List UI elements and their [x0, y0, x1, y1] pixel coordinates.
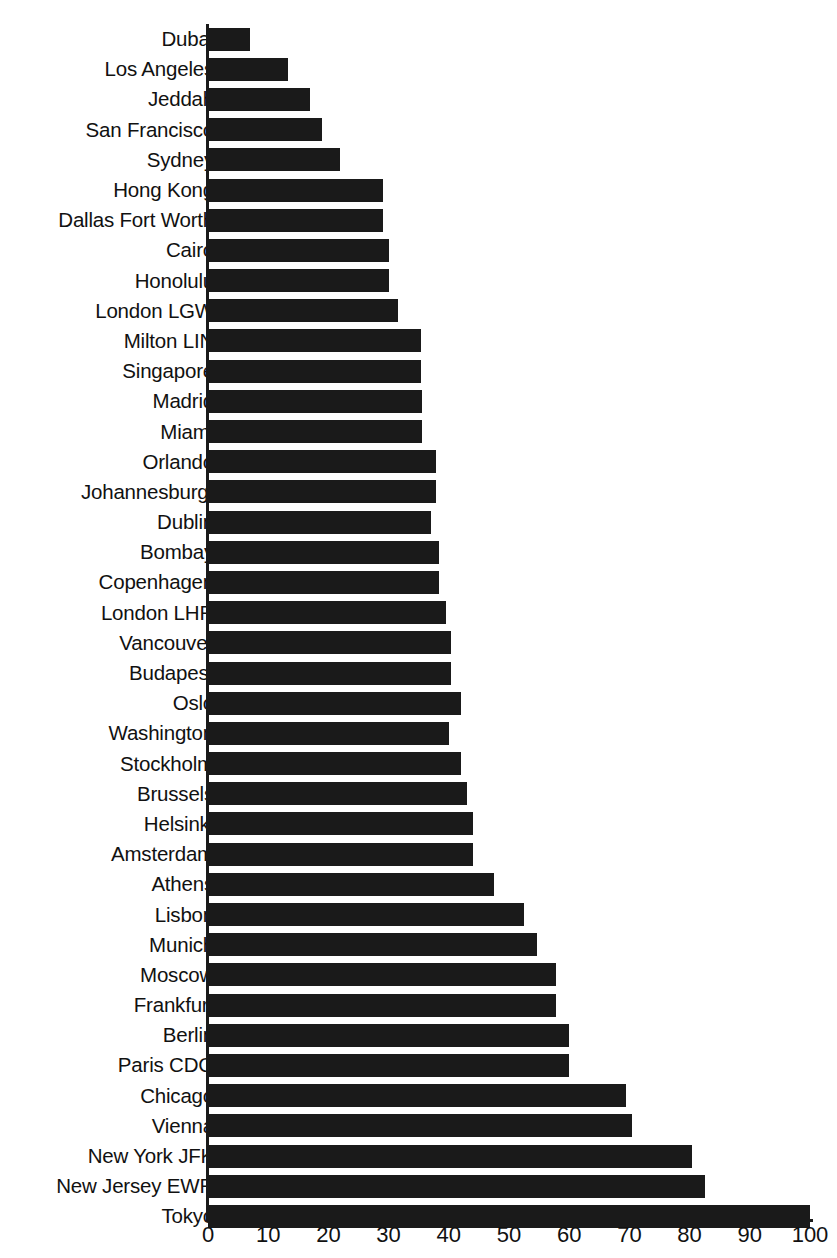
- bar-row: Copenhagen: [0, 567, 837, 597]
- bar: [208, 601, 446, 624]
- bar-track: [208, 416, 837, 446]
- bar-track: [208, 356, 837, 386]
- bar: [208, 299, 398, 322]
- bar: [208, 571, 439, 594]
- bar-track: [208, 24, 837, 54]
- category-label: Brussels: [137, 784, 214, 805]
- bar-track: [208, 749, 837, 779]
- bar-row: Madrid: [0, 386, 837, 416]
- x-tick-label: 40: [437, 1224, 461, 1246]
- bar-track: [208, 447, 837, 477]
- bar: [208, 179, 383, 202]
- category-label: Budapest: [129, 663, 214, 684]
- category-label: Stockholm: [120, 753, 214, 774]
- bar: [208, 480, 436, 503]
- x-tick-label: 60: [557, 1224, 581, 1246]
- category-label: Orlando: [142, 451, 214, 472]
- bar-track: [208, 688, 837, 718]
- bar-track: [208, 537, 837, 567]
- bar: [208, 511, 431, 534]
- category-label: Singapore: [122, 361, 214, 382]
- plot-area: DubaiLos AngelesJeddahSan FranciscoSydne…: [0, 24, 837, 1216]
- category-label: Johannesburg.: [81, 482, 214, 503]
- bar: [208, 28, 250, 51]
- category-label: San Francisco: [86, 119, 214, 140]
- x-tick-label: 70: [617, 1224, 641, 1246]
- bar: [208, 390, 422, 413]
- bar: [208, 1084, 626, 1107]
- x-tick-label: 10: [256, 1224, 280, 1246]
- bar-row: Dallas Fort Worth: [0, 205, 837, 235]
- bar-row: Brussels: [0, 779, 837, 809]
- bar-row: London LGW: [0, 296, 837, 326]
- bar-row: Sydney: [0, 145, 837, 175]
- bar: [208, 88, 310, 111]
- bar-row: New York JFK: [0, 1141, 837, 1171]
- bar-row: Dublin: [0, 507, 837, 537]
- bar-track: [208, 567, 837, 597]
- category-label: New Jersey EWR: [56, 1176, 214, 1197]
- category-label: Milton LIN: [124, 331, 214, 352]
- bar-row: Miami: [0, 416, 837, 446]
- bar: [208, 1175, 705, 1198]
- bar-track: [208, 658, 837, 688]
- category-label: New York JFK: [88, 1146, 214, 1167]
- bar-row: Jeddah: [0, 84, 837, 114]
- bar-track: [208, 84, 837, 114]
- category-label: Copenhagen: [99, 572, 214, 593]
- bar-track: [208, 145, 837, 175]
- bar-track: [208, 1111, 837, 1141]
- bar: [208, 420, 422, 443]
- x-tick-label: 20: [316, 1224, 340, 1246]
- category-label: Honolulu: [135, 270, 214, 291]
- bar: [208, 903, 524, 926]
- category-label: Munich: [149, 934, 214, 955]
- x-tick-label: 80: [677, 1224, 701, 1246]
- bar: [208, 1145, 692, 1168]
- bar-track: [208, 266, 837, 296]
- bar-row: New Jersey EWR: [0, 1171, 837, 1201]
- bar-track: [208, 326, 837, 356]
- bar-row: Washington: [0, 718, 837, 748]
- bar-row: Lisbon: [0, 899, 837, 929]
- category-label: London LHR: [101, 602, 214, 623]
- bar: [208, 782, 467, 805]
- category-label: Hong Kong: [113, 180, 214, 201]
- bar: [208, 933, 537, 956]
- bar-track: [208, 1171, 837, 1201]
- bar: [208, 58, 288, 81]
- bar-track: [208, 628, 837, 658]
- bar-row: Vancouver: [0, 628, 837, 658]
- bar-track: [208, 869, 837, 899]
- bar-row: Berlin: [0, 1020, 837, 1050]
- bar-row: Athens: [0, 869, 837, 899]
- category-label: Madrid: [153, 391, 214, 412]
- bar-track: [208, 930, 837, 960]
- bar-track: [208, 235, 837, 265]
- x-tick-label: 30: [376, 1224, 400, 1246]
- bar-row: Amsterdam: [0, 839, 837, 869]
- bar-track: [208, 718, 837, 748]
- x-tick-label: 50: [497, 1224, 521, 1246]
- x-tick-label: 90: [738, 1224, 762, 1246]
- bar: [208, 692, 461, 715]
- bar-row: Vienna: [0, 1111, 837, 1141]
- bar: [208, 631, 451, 654]
- bar-track: [208, 507, 837, 537]
- bar: [208, 1114, 632, 1137]
- bar-track: [208, 990, 837, 1020]
- bar-track: [208, 899, 837, 929]
- bar: [208, 360, 421, 383]
- category-label: Paris CDG: [118, 1055, 214, 1076]
- bar: [208, 963, 556, 986]
- bar: [208, 209, 383, 232]
- category-label: Los Angeles: [105, 59, 215, 80]
- bar-row: Dubai: [0, 24, 837, 54]
- bar-track: [208, 598, 837, 628]
- category-label: Sydney: [147, 150, 214, 171]
- bar-track: [208, 1020, 837, 1050]
- category-label: London LGW: [95, 301, 214, 322]
- category-label: Washington: [109, 723, 215, 744]
- bar-track: [208, 809, 837, 839]
- bar-row: Orlando: [0, 447, 837, 477]
